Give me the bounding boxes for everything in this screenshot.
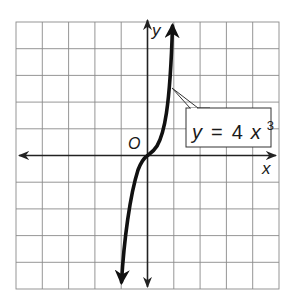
- graph: y x O y = 4 x 3: [0, 0, 282, 295]
- x-axis-label: x: [261, 159, 271, 178]
- equation-callout: y = 4 x 3: [172, 88, 274, 147]
- equation-label: y = 4 x 3: [190, 118, 274, 143]
- origin-label: O: [128, 135, 140, 152]
- y-axis-label: y: [151, 21, 162, 40]
